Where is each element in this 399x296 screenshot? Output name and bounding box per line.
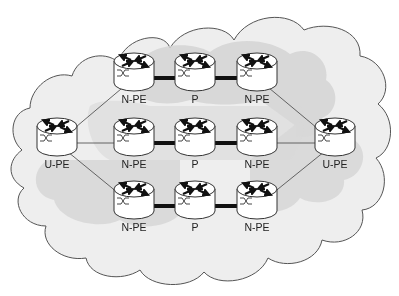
router-label: N-PE: [244, 158, 269, 170]
router-label: P: [191, 93, 198, 105]
network-diagram: U-PEN-PEPN-PEN-PEPN-PEN-PEPN-PEU-PE: [0, 0, 399, 296]
router-top: [114, 53, 154, 69]
router-top: [114, 118, 154, 134]
router-top: [175, 53, 215, 69]
router-label: U-PE: [322, 158, 347, 170]
router-top: [114, 181, 154, 197]
router-label: N-PE: [244, 93, 269, 105]
router-label: N-PE: [121, 93, 146, 105]
router-label: N-PE: [121, 221, 146, 233]
router-top: [237, 181, 277, 197]
router-label: N-PE: [244, 221, 269, 233]
router-top: [315, 118, 355, 134]
router-label: P: [191, 221, 198, 233]
router-label: N-PE: [121, 158, 146, 170]
router-label: P: [191, 158, 198, 170]
router-top: [175, 181, 215, 197]
router-top: [237, 53, 277, 69]
router-top: [237, 118, 277, 134]
router-top: [175, 118, 215, 134]
router-label: U-PE: [44, 158, 69, 170]
router-top: [37, 118, 77, 134]
